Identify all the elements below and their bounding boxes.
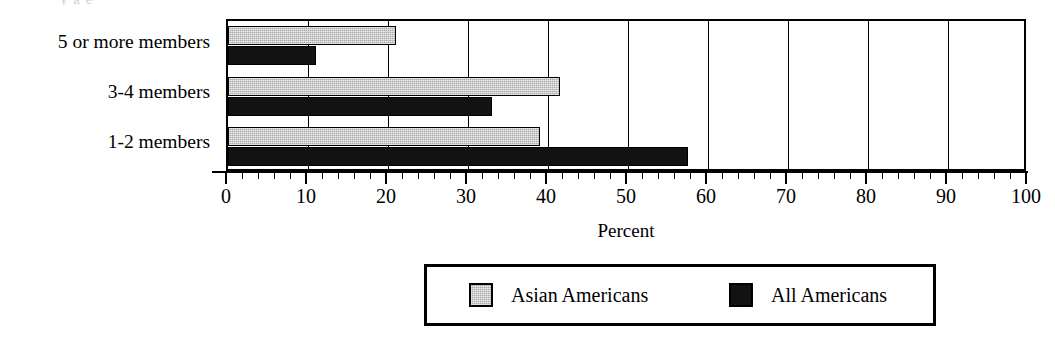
major-tick (545, 173, 547, 184)
x-tick-label: 60 (676, 185, 736, 208)
bar-group (228, 125, 1028, 169)
x-tick-label: 80 (836, 185, 896, 208)
minor-tick (1010, 173, 1011, 179)
major-tick (705, 173, 707, 184)
x-tick-label: 30 (436, 185, 496, 208)
minor-tick (434, 173, 435, 179)
major-tick (305, 173, 307, 184)
category-label-3-4-members: 3-4 members (0, 81, 210, 103)
minor-tick (402, 173, 403, 179)
minor-tick (690, 173, 691, 179)
minor-tick (578, 173, 579, 179)
x-tick-label: 10 (276, 185, 336, 208)
bar-group (228, 24, 1028, 68)
bar-1 (228, 97, 492, 116)
major-tick (1025, 173, 1027, 184)
bar-0 (228, 26, 396, 45)
minor-tick (610, 173, 611, 179)
category-label-5-or-more-members: 5 or more members (0, 31, 210, 53)
minor-tick (338, 173, 339, 179)
minor-tick (482, 173, 483, 179)
legend-swatch-asian-americans (469, 283, 493, 307)
minor-tick (738, 173, 739, 179)
minor-tick (514, 173, 515, 179)
plot-area (226, 19, 1026, 171)
minor-tick (594, 173, 595, 179)
x-tick-label: 70 (756, 185, 816, 208)
legend-entry-all-americans: All Americans (729, 283, 887, 307)
minor-tick (530, 173, 531, 179)
legend-label-asian-americans: Asian Americans (511, 284, 648, 307)
minor-tick (914, 173, 915, 179)
minor-tick (370, 173, 371, 179)
bar-0 (228, 127, 540, 146)
x-axis-title: Percent (226, 220, 1026, 242)
minor-tick (834, 173, 835, 179)
minor-tick (354, 173, 355, 179)
minor-tick (802, 173, 803, 179)
minor-tick (754, 173, 755, 179)
minor-tick (658, 173, 659, 179)
x-tick-label: 100 (996, 185, 1055, 208)
legend-entry-asian-americans: Asian Americans (469, 283, 648, 307)
major-tick (945, 173, 947, 184)
bar-group (228, 75, 1028, 119)
minor-tick (994, 173, 995, 179)
major-tick (225, 173, 227, 184)
major-tick (625, 173, 627, 184)
x-tick-label: 40 (516, 185, 576, 208)
bar-1 (228, 46, 316, 65)
minor-tick (242, 173, 243, 179)
minor-tick (818, 173, 819, 179)
minor-tick (498, 173, 499, 179)
minor-tick (322, 173, 323, 179)
minor-tick (418, 173, 419, 179)
major-tick (385, 173, 387, 184)
minor-tick (978, 173, 979, 179)
minor-tick (930, 173, 931, 179)
major-tick (465, 173, 467, 184)
minor-tick (562, 173, 563, 179)
category-axis: 5 or more members 3-4 members 1-2 member… (0, 19, 218, 171)
minor-tick (898, 173, 899, 179)
category-label-1-2-members: 1-2 members (0, 131, 210, 153)
minor-tick (722, 173, 723, 179)
value-axis: 0102030405060708090100 (226, 171, 1026, 217)
minor-tick (642, 173, 643, 179)
minor-tick (770, 173, 771, 179)
major-tick (785, 173, 787, 184)
x-tick-label: 20 (356, 185, 416, 208)
bar-1 (228, 147, 688, 166)
minor-tick (850, 173, 851, 179)
minor-tick (450, 173, 451, 179)
major-tick (865, 173, 867, 184)
x-tick-label: 0 (196, 185, 256, 208)
x-tick-label: 90 (916, 185, 976, 208)
chart-legend: Asian Americans All Americans (424, 264, 936, 326)
minor-tick (274, 173, 275, 179)
axis-line (212, 171, 1028, 173)
clipped-title-fragment: y a e (60, 0, 220, 5)
minor-tick (674, 173, 675, 179)
minor-tick (258, 173, 259, 179)
minor-tick (882, 173, 883, 179)
x-tick-label: 50 (596, 185, 656, 208)
legend-label-all-americans: All Americans (771, 284, 887, 307)
minor-tick (290, 173, 291, 179)
minor-tick (962, 173, 963, 179)
legend-swatch-all-americans (729, 283, 753, 307)
bar-0 (228, 77, 560, 96)
